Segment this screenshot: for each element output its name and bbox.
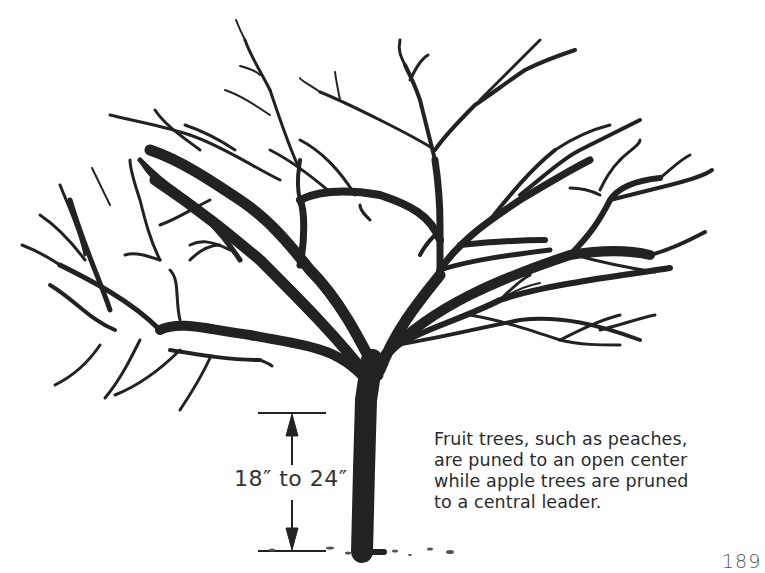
caption-line: to a central leader. [434, 492, 764, 513]
caption-line: are puned to an open center [434, 450, 764, 471]
figure-caption: Fruit trees, such as peaches, are puned … [434, 429, 764, 513]
arrow-down-icon [286, 528, 298, 550]
arrow-up-icon [286, 414, 298, 436]
page-number: 189 [722, 550, 761, 572]
caption-line: Fruit trees, such as peaches, [434, 429, 764, 450]
height-range-label: 18″ to 24″ [232, 466, 350, 491]
caption-line: while apple trees are pruned [434, 471, 764, 492]
